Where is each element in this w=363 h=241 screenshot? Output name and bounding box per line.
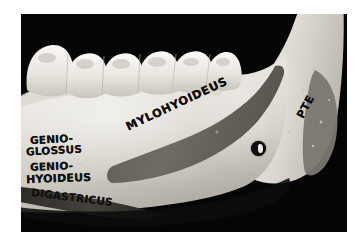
specimen-photograph: GENIO- GLOSSUS GENIO- HYOIDEUS DIGASTRIC… xyxy=(21,14,347,232)
page-root: GENIO- GLOSSUS GENIO- HYOIDEUS DIGASTRIC… xyxy=(0,0,363,241)
label-geniohyoideus-line1: GENIO- xyxy=(30,160,74,172)
photo-stage: GENIO- GLOSSUS GENIO- HYOIDEUS DIGASTRIC… xyxy=(21,14,347,232)
label-geniohyoideus-line2: HYOIDEUS xyxy=(26,172,92,185)
mandibular-foramen xyxy=(251,141,266,156)
